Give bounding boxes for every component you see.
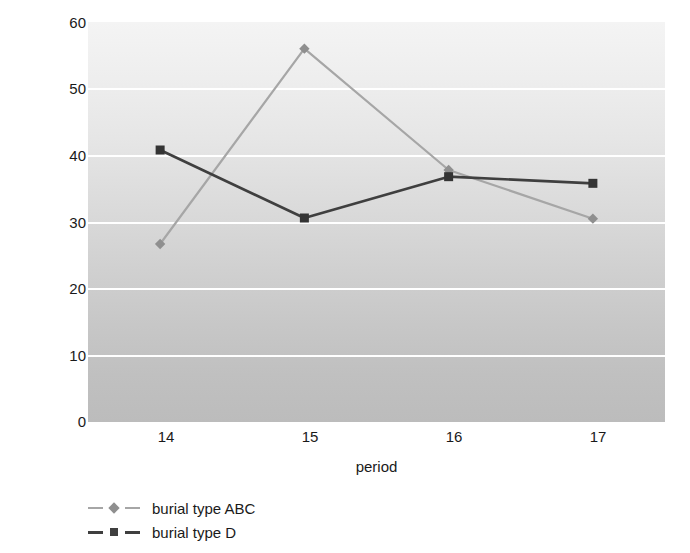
data-point-square xyxy=(588,179,597,188)
data-point-diamond xyxy=(588,213,598,223)
y-tick-label-50: 50 xyxy=(26,81,86,97)
series-line-1 xyxy=(160,49,593,244)
legend-item-burial-type-abc: burial type ABC xyxy=(86,496,446,520)
data-point-square xyxy=(300,214,309,223)
square-icon xyxy=(110,528,118,536)
x-axis-title: period xyxy=(88,458,665,475)
x-tick-label-15: 15 xyxy=(280,428,340,446)
legend-dash-right-icon xyxy=(125,507,140,509)
y-tick-label-0: 0 xyxy=(26,414,86,430)
series-line-2 xyxy=(160,150,593,218)
x-tick-label-16: 16 xyxy=(424,428,484,446)
legend-label-abc: burial type ABC xyxy=(142,500,255,517)
data-point-square xyxy=(156,146,165,155)
legend-swatch-d xyxy=(86,523,142,541)
diamond-icon xyxy=(108,502,119,513)
legend-label-d: burial type D xyxy=(142,524,236,541)
series-layer xyxy=(88,22,665,422)
x-tick-label-14: 14 xyxy=(136,428,196,446)
legend-swatch-abc xyxy=(86,499,142,517)
legend-dash-left-icon xyxy=(88,507,103,509)
legend-dash-left-icon xyxy=(88,531,103,534)
legend-dash-right-icon xyxy=(125,531,140,534)
y-tick-label-60: 60 xyxy=(26,15,86,31)
y-tick-label-40: 40 xyxy=(26,148,86,164)
legend-item-burial-type-d: burial type D xyxy=(86,520,446,544)
y-tick-label-30: 30 xyxy=(26,215,86,231)
x-tick-label-17: 17 xyxy=(568,428,628,446)
legend: burial type ABC burial type D xyxy=(86,496,446,544)
data-point-square xyxy=(444,172,453,181)
line-chart: % observable orbits affected 60 50 40 30… xyxy=(0,0,690,553)
y-tick-label-20: 20 xyxy=(26,281,86,297)
plot-area xyxy=(88,22,665,422)
y-tick-label-10: 10 xyxy=(26,348,86,364)
